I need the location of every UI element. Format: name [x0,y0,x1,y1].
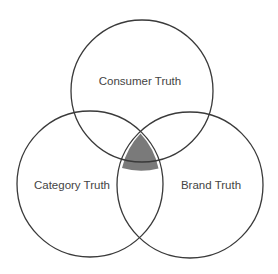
brand-truth-label: Brand Truth [181,179,241,191]
triple-intersection-region [122,134,159,171]
venn-diagram: Consumer Truth Category Truth Brand Trut… [0,0,278,274]
consumer-truth-label: Consumer Truth [99,75,181,87]
category-truth-label: Category Truth [34,179,110,191]
